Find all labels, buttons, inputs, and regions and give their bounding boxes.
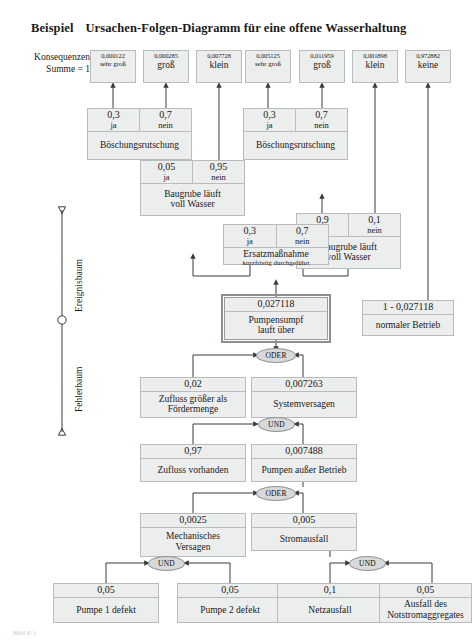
branch-row: 0,05 ja 0,95 nein [141, 161, 244, 184]
axis-label-ereignisbaum: Ereignisbaum [74, 259, 84, 312]
branch-outcome: ja [244, 121, 295, 130]
node-value: 0,007488 [252, 445, 356, 458]
event-node-boeschungsrutschung-right[interactable]: 0,3 ja 0,7 nein Böschungsrutschung [243, 108, 348, 160]
branch-no[interactable]: 0,95 nein [192, 161, 244, 183]
branch-row: 0,3 ja 0,7 nein [244, 109, 347, 132]
branch-yes[interactable]: 0,3 ja [244, 109, 295, 131]
fault-node-ausfall-notstromaggregates[interactable]: 0,05 Ausfall des Notstromaggregates [379, 583, 472, 623]
fault-node-pumpe-1-defekt[interactable]: 0,05 Pumpe 1 defekt [53, 583, 159, 623]
node-label: Mechanisches Versagen [141, 528, 245, 556]
node-label: Systemversagen [252, 392, 356, 417]
node-value: 1 - 0,027118 [363, 301, 453, 314]
node-label-line1: Baugrube läuft [164, 189, 221, 200]
value-row: 0,02 [141, 378, 245, 392]
branch-outcome: nein [140, 121, 191, 130]
node-label-line2: Versagen [176, 542, 211, 553]
node-label: Pumpen außer Betrieb [252, 459, 356, 481]
fault-node-pumpen-ausser-betrieb[interactable]: 0,007488 Pumpen außer Betrieb [251, 444, 357, 482]
value-row: 0,005 [252, 514, 356, 528]
value-row: 0,007263 [252, 378, 356, 392]
consequence-label: groß [157, 60, 174, 72]
node-label: Böschungsrutschung [88, 132, 191, 159]
node-value: 0,027118 [225, 298, 327, 311]
page-title: BeispielUrsachen-Folgen-Diagramm für ein… [31, 21, 406, 36]
branch-yes[interactable]: 0,05 ja [141, 161, 192, 183]
node-label: Böschungsrutschung [244, 132, 347, 159]
fault-node-mechanisches-versagen[interactable]: 0,0025 Mechanisches Versagen [140, 513, 246, 557]
branch-outcome: ja [88, 121, 139, 130]
value-row: 0,007488 [252, 445, 356, 459]
consequence-label: klein [210, 60, 229, 72]
node-label: Ersatzmaßnahme kurzfristig durchgeführt [224, 248, 328, 268]
value-row: 0,05 [178, 584, 282, 598]
node-label: Pumpe 2 defekt [178, 598, 282, 622]
branch-yes[interactable]: 0,3 ja [88, 109, 139, 131]
event-node-boeschungsrutschung-left[interactable]: 0,3 ja 0,7 nein Böschungsrutschung [87, 108, 192, 160]
consequence-header-line1: Konsequenzen [18, 52, 90, 64]
node-label: Ausfall des Notstromaggregates [380, 598, 471, 622]
node-value: 0,02 [141, 378, 245, 391]
node-value: 0,007263 [252, 378, 356, 391]
consequence-box-5[interactable]: 0,011959 groß [299, 50, 345, 83]
value-row: 0,05 [380, 584, 471, 598]
node-value: 0,1 [278, 584, 382, 597]
node-label: Pumpe 1 defekt [54, 598, 158, 622]
consequence-box-7[interactable]: 0,972882 keine [405, 50, 451, 83]
fault-node-stromausfall[interactable]: 0,005 Stromausfall [251, 513, 357, 551]
node-label-line2: voll Wasser [170, 199, 214, 210]
fault-node-zufluss-groesser[interactable]: 0,02 Zufluss größer als Fördermenge [140, 377, 246, 418]
branch-row: 0,3 ja 0,7 nein [224, 225, 328, 248]
fault-node-pumpensumpf[interactable]: 0,027118 Pumpensumpf lauft über [224, 297, 328, 340]
branch-yes[interactable]: 0,3 ja [224, 225, 276, 247]
branch-outcome: ja [224, 237, 276, 246]
gate-und-right[interactable]: UND [349, 556, 386, 571]
consequence-box-3[interactable]: 0,007728 klein [196, 50, 242, 83]
page-title-text: Ursachen-Folgen-Diagramm für eine offene… [85, 21, 406, 35]
node-label-line1: Mechanisches [166, 531, 220, 542]
event-node-baugrube-left[interactable]: 0,05 ja 0,95 nein Baugrube läuft voll Wa… [140, 160, 245, 216]
gate-oder-top[interactable]: ODER [256, 348, 296, 363]
branch-outcome: nein [277, 237, 329, 246]
branch-row: 0,3 ja 0,7 nein [88, 109, 191, 132]
node-label-sub: kurzfristig durchgeführt [242, 260, 309, 268]
branch-no[interactable]: 0,7 nein [295, 109, 347, 131]
node-label-main: Ersatzmaßnahme [243, 249, 308, 260]
consequence-box-2[interactable]: 0,000285 groß [143, 50, 189, 83]
fault-node-netzausfall[interactable]: 0,1 Netzausfall [277, 583, 383, 623]
node-label: Zufluss größer als Fördermenge [141, 392, 245, 417]
gate-und-left[interactable]: UND [148, 556, 185, 571]
diagram-canvas: BeispielUrsachen-Folgen-Diagramm für ein… [0, 0, 475, 641]
branch-no[interactable]: 0,7 nein [139, 109, 191, 131]
branch-no[interactable]: 0,1 nein [348, 214, 400, 236]
consequence-label: groß [313, 60, 330, 72]
node-label-line2: voll Wasser [326, 252, 370, 263]
node-value: 0,97 [141, 445, 245, 458]
consequence-box-4[interactable]: 0,005125 sehr groß [245, 50, 291, 83]
node-value: 0,05 [380, 584, 471, 597]
branch-outcome: nein [349, 226, 400, 235]
node-label-line2: lauft über [258, 325, 295, 336]
consequence-box-6[interactable]: 0,001898 klein [352, 50, 398, 83]
fault-node-pumpe-2-defekt[interactable]: 0,05 Pumpe 2 defekt [177, 583, 283, 623]
value-row: 0,1 [278, 584, 382, 598]
consequence-probability: 0,972882 [416, 51, 440, 60]
value-row: 0,027118 [225, 298, 327, 312]
node-value: 0,0025 [141, 514, 245, 527]
node-value: 0,05 [54, 584, 158, 597]
figure-caption: Bild 8-1 [13, 629, 36, 637]
consequence-box-1[interactable]: 0,000122 sehr groß [90, 50, 136, 83]
node-label: normaler Betrieb [363, 315, 453, 335]
fault-node-normaler-betrieb[interactable]: 1 - 0,027118 normaler Betrieb [362, 300, 454, 336]
fault-node-zufluss-vorhanden[interactable]: 0,97 Zufluss vorhanden [140, 444, 246, 482]
gate-oder-mid[interactable]: ODER [256, 486, 296, 501]
branch-no[interactable]: 0,7 nein [276, 225, 329, 247]
consequence-label: keine [418, 60, 439, 72]
consequence-header-line2: Summe = 1 [18, 64, 90, 76]
node-label-line2: Fördermenge [168, 404, 219, 415]
event-node-ersatzmassnahme[interactable]: 0,3 ja 0,7 nein Ersatzmaßnahme kurzfrist… [223, 224, 329, 265]
gate-und-mid[interactable]: UND [258, 417, 295, 432]
node-label-line2: Notstromaggregates [387, 610, 464, 621]
fault-node-systemversagen[interactable]: 0,007263 Systemversagen [251, 377, 357, 418]
consequence-header: Konsequenzen Summe = 1 [18, 52, 90, 76]
node-value: 0,005 [252, 514, 356, 527]
